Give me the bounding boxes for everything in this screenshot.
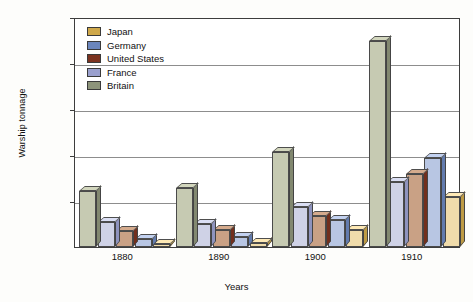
legend-swatch-icon bbox=[87, 41, 101, 50]
legend-item-germany[interactable]: Germany bbox=[87, 39, 164, 53]
bar-japan-1880 bbox=[153, 244, 170, 247]
bar-group-1910 bbox=[369, 19, 462, 247]
bar-face bbox=[79, 191, 96, 247]
bar-group-1900 bbox=[272, 19, 365, 247]
bar-face bbox=[250, 243, 267, 247]
x-axis-title: Years bbox=[0, 281, 473, 292]
bar-face bbox=[272, 152, 289, 247]
legend-swatch-icon bbox=[87, 81, 101, 90]
legend-swatch-icon bbox=[87, 68, 101, 77]
bar-side-face bbox=[193, 182, 198, 247]
chart-legend: JapanGermanyUnited StatesFranceBritain bbox=[87, 25, 164, 93]
bar-britain-1910 bbox=[369, 41, 386, 247]
bar-side-face bbox=[308, 201, 313, 247]
legend-item-label: Britain bbox=[107, 81, 134, 91]
legend-swatch-icon bbox=[87, 54, 101, 63]
bar-group-1890 bbox=[176, 19, 269, 247]
legend-item-britain[interactable]: Britain bbox=[87, 79, 164, 93]
x-tick-label: 1880 bbox=[79, 251, 165, 262]
bar-side-face bbox=[423, 168, 428, 247]
bar-side-face bbox=[289, 146, 294, 247]
bar-britain-1880 bbox=[79, 191, 96, 247]
warship-tonnage-chart: Warship tonnage 2,500,0002,000,0001,500,… bbox=[0, 0, 473, 302]
bar-britain-1900 bbox=[272, 152, 289, 247]
bar-face bbox=[176, 188, 193, 247]
bar-side-face bbox=[460, 191, 465, 247]
legend-item-japan[interactable]: Japan bbox=[87, 25, 164, 39]
legend-item-france[interactable]: France bbox=[87, 66, 164, 80]
y-tick-mark bbox=[70, 64, 74, 65]
legend-item-label: United States bbox=[107, 54, 164, 64]
y-tick-mark bbox=[70, 156, 74, 157]
legend-item-label: Japan bbox=[107, 27, 133, 37]
bar-britain-1890 bbox=[176, 188, 193, 247]
y-axis-title: Warship tonnage bbox=[17, 68, 27, 178]
x-tick-label: 1900 bbox=[272, 251, 358, 262]
bar-face bbox=[153, 244, 170, 247]
bar-side-face bbox=[96, 185, 101, 247]
legend-item-label: France bbox=[107, 68, 137, 78]
x-tick-label: 1890 bbox=[176, 251, 262, 262]
bar-japan-1890 bbox=[250, 243, 267, 247]
y-tick-mark bbox=[70, 18, 74, 19]
bar-side-face bbox=[441, 152, 446, 247]
bar-side-face bbox=[404, 176, 409, 247]
x-tick-label: 1910 bbox=[369, 251, 455, 262]
y-tick-mark bbox=[70, 110, 74, 111]
legend-swatch-icon bbox=[87, 27, 101, 36]
legend-item-label: Germany bbox=[107, 41, 146, 51]
bar-face bbox=[369, 41, 386, 247]
legend-item-united-states[interactable]: United States bbox=[87, 52, 164, 66]
y-tick-mark bbox=[70, 202, 74, 203]
bar-side-face bbox=[386, 35, 391, 247]
